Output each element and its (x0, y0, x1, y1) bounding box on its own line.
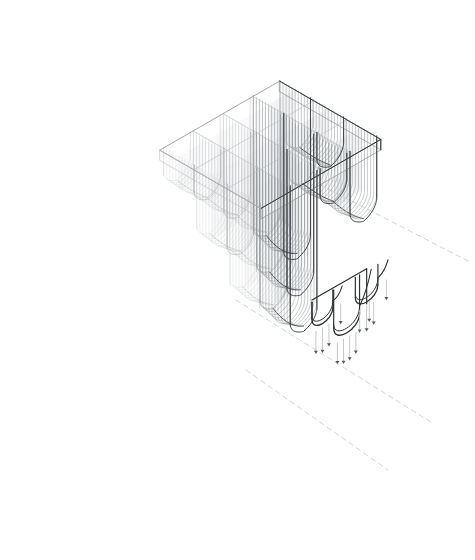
vault-lobe-tint (245, 179, 272, 287)
background (0, 0, 475, 560)
axonometric-drawing (0, 0, 475, 560)
drawing-canvas (0, 0, 475, 560)
